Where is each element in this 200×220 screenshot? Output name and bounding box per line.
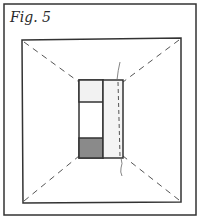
top-cell xyxy=(79,80,103,102)
bottom-cell-shaded xyxy=(79,138,103,158)
thread-top xyxy=(117,62,120,80)
diagram-canvas xyxy=(0,0,200,220)
thread-bottom xyxy=(121,158,122,176)
